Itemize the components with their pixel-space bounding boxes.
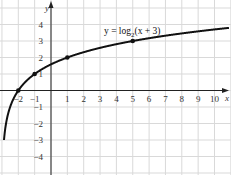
x-tick-label: 6 bbox=[147, 94, 152, 104]
y-tick-label: −3 bbox=[33, 135, 43, 145]
data-point bbox=[16, 88, 21, 93]
y-tick-label: −2 bbox=[33, 119, 43, 129]
log-function-graph: −2−112345678910−4−3−2−11234 y = log2(x +… bbox=[0, 0, 231, 175]
x-tick-label: 7 bbox=[163, 94, 168, 104]
x-tick-label: 1 bbox=[65, 94, 70, 104]
y-tick-label: 2 bbox=[39, 53, 44, 63]
x-tick-label: 2 bbox=[81, 94, 86, 104]
y-tick-label: 4 bbox=[39, 20, 44, 30]
chart-container: −2−112345678910−4−3−2−11234 y = log2(x +… bbox=[0, 0, 231, 175]
equation-suffix: (x + 3) bbox=[135, 26, 161, 37]
marked-points bbox=[16, 39, 135, 93]
x-tick-label: 4 bbox=[114, 94, 119, 104]
data-point bbox=[65, 55, 70, 60]
data-point bbox=[130, 39, 135, 44]
y-tick-label: −1 bbox=[33, 102, 43, 112]
x-tick-label: 10 bbox=[210, 94, 220, 104]
x-tick-label: 9 bbox=[196, 94, 201, 104]
y-tick-label: −4 bbox=[33, 152, 43, 162]
x-tick-label: 3 bbox=[98, 94, 103, 104]
equation-prefix: y = log bbox=[104, 26, 131, 36]
x-tick-label: 8 bbox=[180, 94, 185, 104]
x-axis-label: x bbox=[224, 93, 229, 103]
equation-label: y = log2(x + 3) bbox=[104, 26, 160, 39]
y-axis-arrow-icon bbox=[49, 1, 54, 8]
y-axis-label: y bbox=[44, 3, 49, 13]
y-tick-label: 3 bbox=[39, 36, 44, 46]
data-point bbox=[32, 72, 37, 77]
x-tick-label: 5 bbox=[131, 94, 136, 104]
